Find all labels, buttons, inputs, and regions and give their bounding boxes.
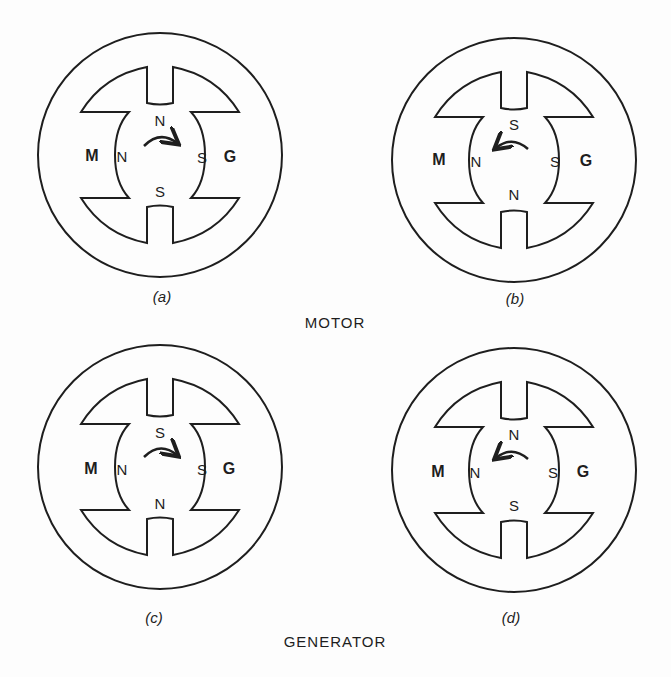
section-title-generator: GENERATOR (284, 633, 387, 650)
pole-left-b: N (471, 153, 482, 170)
pole-left-d: N (470, 464, 481, 481)
section-title-motor: MOTOR (305, 314, 366, 331)
label-m-d: M (431, 463, 444, 481)
pole-left-a: N (117, 148, 128, 165)
machine-c (38, 345, 282, 589)
pole-right-a: S (197, 149, 207, 166)
caption-b: (b) (506, 290, 524, 307)
label-m-a: M (85, 147, 98, 165)
label-g-c: G (223, 460, 235, 478)
pole-left-c: N (117, 461, 128, 478)
pole-right-c: S (197, 461, 207, 478)
caption-d: (d) (502, 609, 520, 626)
caption-c: (c) (145, 609, 163, 626)
label-m-c: M (84, 460, 97, 478)
label-g-d: G (577, 463, 589, 481)
machine-d (392, 348, 636, 592)
diagram-canvas (0, 0, 671, 677)
pole-bottom-c: N (155, 495, 166, 512)
pole-bottom-d: S (509, 497, 519, 514)
pole-top-c: S (155, 424, 165, 441)
label-g-a: G (224, 148, 236, 166)
pole-bottom-b: N (509, 186, 520, 203)
machine-b (392, 38, 636, 282)
pole-top-d: N (509, 426, 520, 443)
clockwise-arrow-icon (144, 137, 177, 146)
pole-top-b: S (509, 116, 519, 133)
pole-right-b: S (550, 153, 560, 170)
label-g-b: G (580, 152, 592, 170)
pole-bottom-a: S (155, 183, 165, 200)
clockwise-arrow-icon (144, 448, 177, 457)
pole-right-d: S (548, 464, 558, 481)
counterclockwise-arrow-icon (496, 452, 528, 459)
label-m-b: M (432, 151, 445, 169)
machine-a (38, 33, 282, 277)
pole-top-a: N (155, 112, 166, 129)
caption-a: (a) (153, 288, 171, 305)
counterclockwise-arrow-icon (496, 142, 528, 149)
